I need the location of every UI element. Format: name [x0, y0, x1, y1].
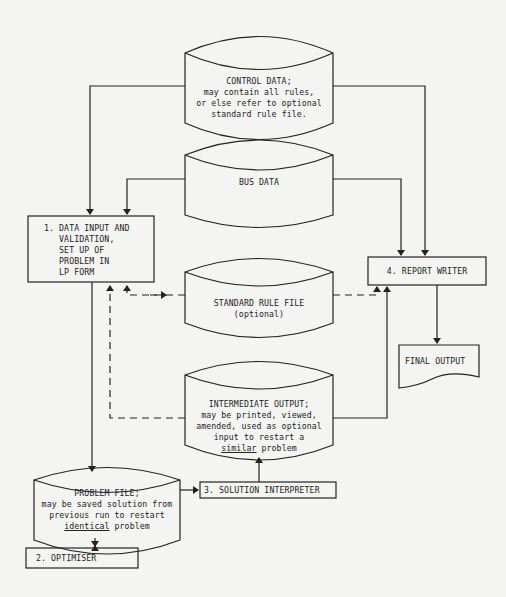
problem-file-line-2: previous run to restart [34, 510, 180, 521]
report-writer-label: 4. REPORT WRITER [368, 266, 486, 277]
optimiser-label: 2. OPTIMISER [36, 553, 96, 564]
intermediate-output-title: INTERMEDIATE OUTPUT; [185, 399, 333, 410]
data-input-line-4: PROBLEM IN [44, 256, 109, 267]
identical-underlined: identical [64, 521, 109, 531]
problem-file-line-1: may be saved solution from [34, 499, 180, 510]
intermediate-output-line-2: amended, used as optional [185, 421, 333, 432]
data-input-line-1: 1. DATA INPUT AND [44, 223, 130, 234]
intermediate-output-line-3: input to restart a [185, 432, 333, 443]
problem-file-line-3: identical problem [34, 521, 180, 532]
control-data-line-1: may contain all rules, [185, 87, 333, 98]
intermediate-output-line-4: similar problem [185, 443, 333, 454]
problem-file-title: PROBLEM FILE; [34, 488, 180, 499]
control-data-line-3: standard rule file. [185, 109, 333, 120]
bus-data-title: BUS DATA [185, 177, 333, 188]
data-input-line-3: SET UP OF [44, 245, 104, 256]
similar-underlined: similar [221, 443, 256, 453]
solution-interpreter-label: 3. SOLUTION INTERPRETER [204, 485, 320, 496]
standard-rule-file-subtitle: (optional) [185, 309, 333, 320]
control-data-title: CONTROL DATA; [185, 76, 333, 87]
data-input-line-5: LP FORM [44, 267, 94, 278]
final-output-label: FINAL OUTPUT [405, 356, 465, 367]
control-data-line-2: or else refer to optional [185, 98, 333, 109]
intermediate-output-line-1: may be printed, viewed, [185, 410, 333, 421]
standard-rule-file-title: STANDARD RULE FILE [185, 298, 333, 309]
data-input-line-2: VALIDATION, [44, 234, 114, 245]
